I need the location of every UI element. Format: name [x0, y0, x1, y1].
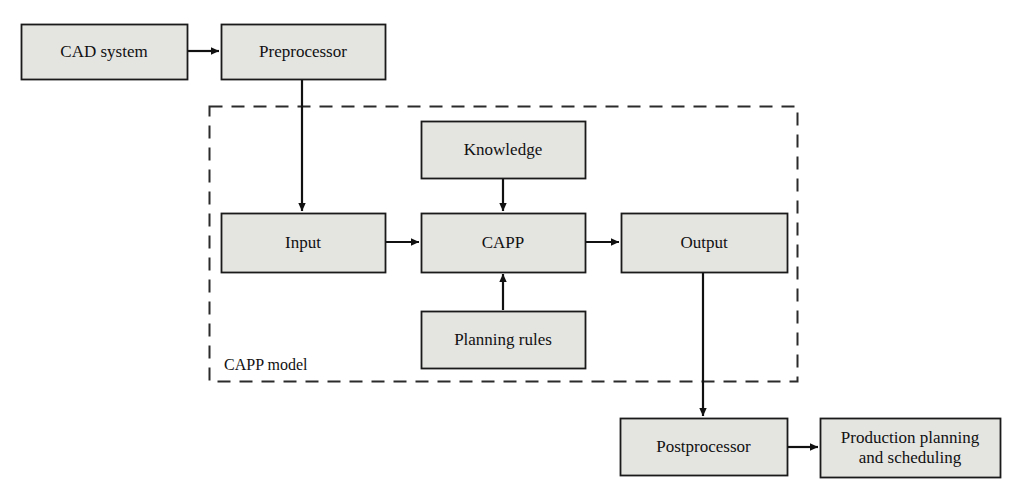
node-box-prod[interactable] — [821, 419, 1001, 478]
capp-model-group-label: CAPP model — [224, 356, 307, 374]
node-box-in[interactable] — [222, 214, 386, 273]
diagram-vector-layer — [0, 0, 1012, 486]
node-box-post[interactable] — [621, 419, 788, 476]
node-box-cad[interactable] — [22, 25, 188, 80]
node-box-layer — [22, 25, 1001, 478]
node-box-pre[interactable] — [222, 25, 386, 80]
node-box-know[interactable] — [422, 122, 586, 179]
node-box-capp[interactable] — [422, 214, 586, 273]
node-box-rules[interactable] — [422, 312, 586, 369]
diagram-canvas: CAD systemPreprocessorKnowledgeInputCAPP… — [0, 0, 1012, 486]
node-box-out[interactable] — [622, 214, 788, 273]
